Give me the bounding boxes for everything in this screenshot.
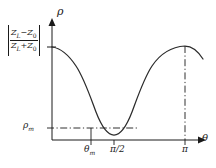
x-axis-title: θ [202, 133, 208, 143]
denominator-z2-subscript: 0 [33, 45, 37, 52]
x-tick-label-pi-over-2: π/2 [110, 145, 125, 154]
y-axis-title: ρ [57, 6, 63, 17]
theta-m-subscript: m [89, 149, 95, 156]
numerator-z2-subscript: 0 [33, 32, 37, 39]
impedance-fraction: ZL−Z0 ZL+Z0 [10, 29, 38, 51]
figure-canvas: ρ θ ZL−Z0 ZL+Z0 ρm θm π/2 π [0, 0, 216, 168]
fraction-numerator: ZL−Z0 [10, 29, 38, 40]
abs-bar-right [39, 25, 40, 56]
abs-bar-left [8, 25, 9, 56]
y-axis-arrowhead [49, 18, 56, 26]
x-tick-label-pi: π [182, 145, 188, 154]
x-tick-label-theta-m: θm [84, 145, 95, 156]
y-tick-label-rho-m: ρm [23, 121, 34, 132]
x-axis [52, 137, 206, 144]
y-axis [49, 18, 56, 140]
y-axis-top-value-label: ZL−Z0 ZL+Z0 [7, 25, 41, 56]
reflection-coefficient-curve [52, 46, 203, 135]
fraction-denominator: ZL+Z0 [10, 41, 38, 52]
rho-m-subscript: m [28, 125, 34, 132]
